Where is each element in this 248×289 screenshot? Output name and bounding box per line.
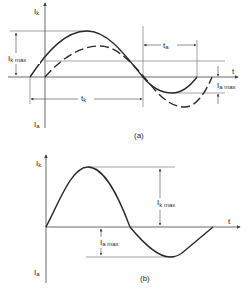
a-caption: (a) (134, 131, 144, 140)
diagram-a: Ik max tk ta Ia max Ik Ia t (a) (6, 3, 238, 140)
b-caption: (b) (140, 274, 150, 283)
b-y-bottom-label: Ia (34, 268, 40, 277)
a-ia-max-label: Ia max (217, 81, 236, 90)
a-dashed-waveform (45, 46, 212, 107)
diagram-b: Ik max Ia max Ik Ia t (b) (34, 155, 240, 283)
b-y-top-label: Ik (36, 159, 42, 168)
b-t-axis-label: t (228, 217, 231, 226)
a-y-top-label: Ik (34, 7, 40, 16)
b-waveform (46, 167, 213, 257)
a-y-bottom-label: Ia (34, 120, 40, 129)
diagram-canvas: Ik max tk ta Ia max Ik Ia t (a) Ik (0, 0, 248, 289)
a-t-axis-label: t (232, 67, 235, 76)
